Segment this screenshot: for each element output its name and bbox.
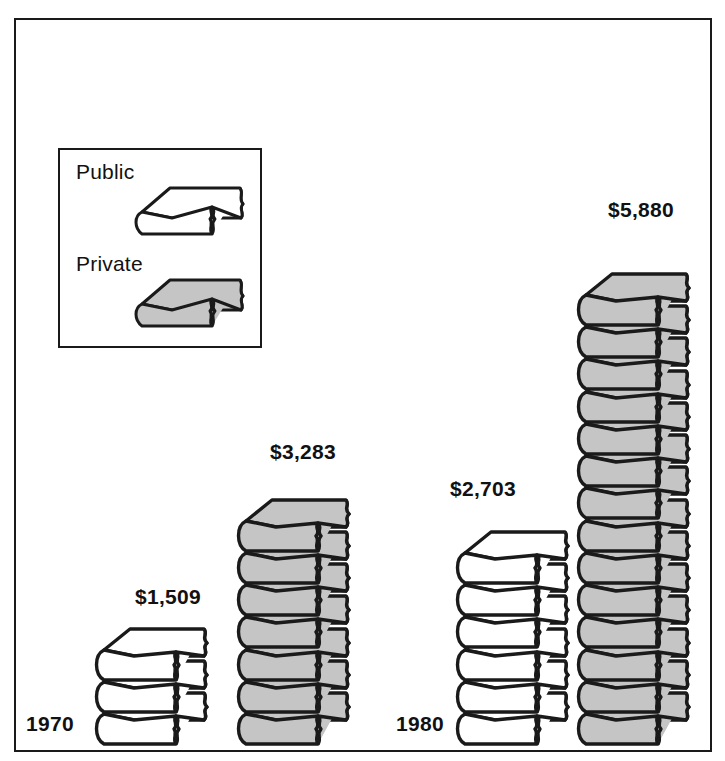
value-label-private-1980: $5,880 [608,198,674,222]
legend-entry-private: Private [60,248,260,340]
book-unit [228,495,378,557]
stack-public-1970 [86,624,241,750]
value-label-public-1970: $1,509 [135,585,201,609]
legend-label-private: Private [76,252,143,276]
book-glyph [228,495,378,557]
legend-book-private-icon [112,274,252,336]
legend-book-public-icon [112,182,252,244]
legend-label-public: Public [76,160,134,184]
book-glyph [568,269,718,331]
value-label-public-1980: $2,703 [450,477,516,501]
book-unit [568,269,718,331]
chart-legend: Public Private [58,148,262,348]
value-label-private-1970: $3,283 [270,440,336,464]
stack-private-1970 [228,495,383,750]
legend-entry-public: Public [60,156,260,248]
year-label-1970: 1970 [26,712,74,736]
year-label-1980: 1980 [396,712,444,736]
book-glyph [86,624,236,686]
stack-private-1980 [568,269,723,750]
pictogram-chart: Public Private $1,509 $3,283 $2,7 [0,0,725,761]
book-unit [86,624,236,686]
